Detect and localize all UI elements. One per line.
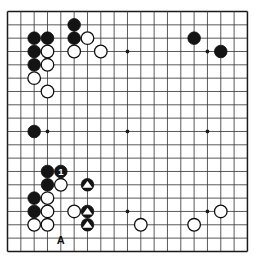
star-point [126, 50, 130, 54]
black-stone[interactable] [28, 45, 41, 58]
white-stone[interactable] [135, 218, 148, 231]
white-stone[interactable] [41, 192, 54, 205]
go-board[interactable]: 1 A [0, 0, 258, 273]
black-stone[interactable] [28, 59, 41, 72]
star-point [126, 130, 130, 134]
white-stone[interactable] [68, 205, 81, 218]
black-stone[interactable] [28, 205, 41, 218]
white-stone[interactable] [95, 45, 108, 58]
white-stone[interactable] [28, 72, 41, 85]
black-stone[interactable] [68, 32, 81, 45]
black-stone[interactable] [41, 165, 54, 178]
white-stone[interactable] [28, 218, 41, 231]
white-stone[interactable] [41, 205, 54, 218]
black-stone[interactable] [41, 178, 54, 191]
black-stone[interactable] [28, 32, 41, 45]
star-point [206, 50, 210, 54]
white-stone[interactable] [41, 45, 54, 58]
white-stone[interactable] [41, 218, 54, 231]
black-stone[interactable] [41, 32, 54, 45]
star-point [126, 210, 130, 214]
black-stone[interactable] [188, 32, 201, 45]
board-letter-label: A [57, 234, 65, 246]
black-stone[interactable] [214, 45, 227, 58]
star-point [46, 130, 50, 134]
white-stone[interactable] [41, 59, 54, 72]
white-stone[interactable] [81, 32, 94, 45]
star-point [206, 210, 210, 214]
coordinate-labels: A [57, 234, 65, 246]
white-stone[interactable] [68, 45, 81, 58]
white-stone[interactable] [188, 218, 201, 231]
move-number-label: 1 [58, 166, 64, 177]
black-stone[interactable] [68, 19, 81, 32]
white-stone[interactable] [55, 178, 68, 191]
white-stone[interactable] [41, 85, 54, 98]
white-stone[interactable] [214, 205, 227, 218]
star-point [206, 130, 210, 134]
black-stone[interactable] [28, 192, 41, 205]
go-diagram-container: 1 A [0, 0, 258, 273]
black-stone[interactable] [28, 125, 41, 138]
